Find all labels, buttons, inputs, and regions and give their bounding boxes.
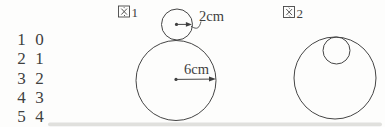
zu-kanji-glyph: [119, 6, 130, 17]
small-radius-label: 2cm: [199, 8, 225, 24]
table-cell: 0: [35, 30, 44, 49]
figure2: [294, 37, 376, 119]
scan-shadow: [48, 123, 382, 127]
figure2-label-number: 2: [297, 6, 304, 21]
figure1-label-number: 1: [132, 5, 139, 20]
table-cell: 5: [17, 107, 26, 126]
zu-kanji-glyph: [284, 7, 295, 18]
figure2-label: 2: [284, 6, 304, 21]
textbook-figure: 1 0 2 1 3 2 4 3 5 4 1: [0, 0, 385, 127]
small-radius-arrow: [177, 22, 193, 27]
table-cell: 3: [35, 88, 44, 107]
table-cell: 2: [17, 49, 26, 68]
figure2-small-circle: [323, 37, 350, 64]
table-cell: 2: [35, 69, 44, 88]
figure-scene: 1 0 2 1 3 2 4 3 5 4 1: [0, 0, 385, 127]
figure2-large-circle: [294, 37, 376, 119]
table-cell: 3: [17, 69, 26, 88]
number-table: 1 0 2 1 3 2 4 3 5 4: [17, 30, 44, 126]
large-radius-arrow: [176, 77, 216, 82]
large-radius-label: 6cm: [184, 61, 210, 77]
table-cell: 1: [35, 49, 44, 68]
figure1: 2cm 6cm: [136, 8, 225, 121]
figure1-label: 1: [119, 5, 139, 20]
table-cell: 4: [17, 88, 26, 107]
table-cell: 1: [17, 30, 26, 49]
table-cell: 4: [35, 107, 44, 126]
